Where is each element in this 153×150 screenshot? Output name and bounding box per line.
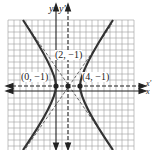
point-0	[53, 83, 58, 88]
x-prime-axis	[6, 84, 146, 89]
points	[53, 83, 82, 88]
point-2	[77, 83, 82, 88]
right-branch	[80, 20, 113, 150]
x-prime-axis-label: x'	[146, 80, 151, 88]
point-label-0: (0, −1)	[21, 72, 48, 82]
point-label-2: (4, −1)	[82, 72, 109, 82]
y-axis-label: y	[49, 4, 53, 14]
point-1	[65, 83, 70, 88]
x-axis-label: x	[146, 88, 150, 96]
y-prime-axis-label: y'	[59, 4, 66, 14]
point-label-1: (2, −1)	[55, 50, 82, 60]
left-branch	[23, 20, 56, 150]
grid	[8, 20, 134, 150]
x-axis	[6, 89, 146, 94]
